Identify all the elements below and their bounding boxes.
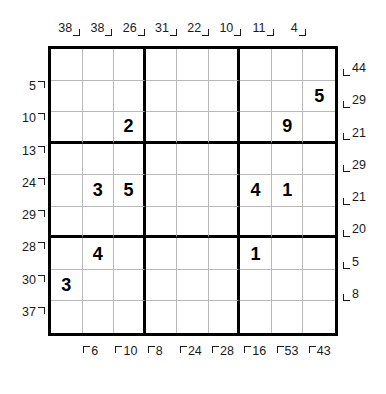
empty-cell-r7c3[interactable] [114,238,146,270]
empty-cell-r7c9[interactable] [303,238,335,270]
empty-cell-r1c5[interactable] [177,49,209,81]
empty-cell-r2c3[interactable] [114,81,146,113]
empty-cell-r2c7[interactable] [240,81,272,113]
top-clue-col4: 31 [151,22,177,35]
given-cell-r5c7[interactable]: 4 [240,175,272,207]
empty-cell-r4c8[interactable] [272,144,304,176]
empty-cell-r7c8[interactable] [272,238,304,270]
empty-cell-r1c1[interactable] [51,49,83,81]
empty-cell-r9c9[interactable] [303,301,335,333]
empty-cell-r3c2[interactable] [83,112,115,144]
empty-cell-r6c2[interactable] [83,207,115,239]
top-clue-col7: 11 [248,22,274,35]
empty-cell-r9c5[interactable] [177,301,209,333]
given-cell-r3c8[interactable]: 9 [272,112,304,144]
empty-cell-r8c7[interactable] [240,270,272,302]
empty-cell-r1c3[interactable] [114,49,146,81]
clue-corner-bracket-icon [234,29,241,36]
empty-cell-r1c6[interactable] [209,49,241,81]
right-clue-row4: 29 [343,159,377,172]
empty-cell-r4c7[interactable] [240,144,272,176]
clue-corner-bracket-icon [343,133,350,140]
given-cell-r7c7[interactable]: 1 [240,238,272,270]
empty-cell-r8c3[interactable] [114,270,146,302]
empty-cell-r7c6[interactable] [209,238,241,270]
empty-cell-r7c1[interactable] [51,238,83,270]
empty-cell-r9c7[interactable] [240,301,272,333]
empty-cell-r3c7[interactable] [240,112,272,144]
empty-cell-r6c5[interactable] [177,207,209,239]
empty-cell-r1c2[interactable] [83,49,115,81]
empty-cell-r8c9[interactable] [303,270,335,302]
empty-cell-r4c4[interactable] [146,144,178,176]
empty-cell-r1c8[interactable] [272,49,304,81]
empty-cell-r3c6[interactable] [209,112,241,144]
empty-cell-r5c1[interactable] [51,175,83,207]
frame-sudoku-puzzle: 383826312210114 510132429283037 44292129… [0,0,386,394]
bottom-clue-col6: 28 [212,345,241,358]
clue-value: 24 [188,345,202,358]
empty-cell-r6c4[interactable] [146,207,178,239]
given-cell-r5c3[interactable]: 5 [114,175,146,207]
empty-cell-r2c6[interactable] [209,81,241,113]
clue-corner-bracket-icon [202,29,209,36]
clue-value: 26 [123,22,137,35]
empty-cell-r2c1[interactable] [51,81,83,113]
empty-cell-r6c8[interactable] [272,207,304,239]
empty-cell-r1c9[interactable] [303,49,335,81]
empty-cell-r9c6[interactable] [209,301,241,333]
empty-cell-r7c4[interactable] [146,238,178,270]
empty-cell-r3c1[interactable] [51,112,83,144]
given-cell-r5c8[interactable]: 1 [272,175,304,207]
top-clue-col3: 26 [119,22,145,35]
clue-value: 5 [352,256,359,269]
empty-cell-r6c1[interactable] [51,207,83,239]
clue-corner-bracket-icon [38,81,45,88]
empty-cell-r8c5[interactable] [177,270,209,302]
clue-value: 28 [220,345,234,358]
empty-cell-r3c9[interactable] [303,112,335,144]
empty-cell-r5c5[interactable] [177,175,209,207]
empty-cell-r2c5[interactable] [177,81,209,113]
empty-cell-r6c7[interactable] [240,207,272,239]
empty-cell-r9c4[interactable] [146,301,178,333]
empty-cell-r9c1[interactable] [51,301,83,333]
top-clue-col6: 10 [215,22,241,35]
empty-cell-r4c2[interactable] [83,144,115,176]
empty-cell-r2c4[interactable] [146,81,178,113]
empty-cell-r6c9[interactable] [303,207,335,239]
empty-cell-r1c7[interactable] [240,49,272,81]
empty-cell-r2c2[interactable] [83,81,115,113]
empty-cell-r4c6[interactable] [209,144,241,176]
given-cell-r3c3[interactable]: 2 [114,112,146,144]
empty-cell-r6c6[interactable] [209,207,241,239]
empty-cell-r3c4[interactable] [146,112,178,144]
clue-value: 29 [22,209,36,222]
empty-cell-r8c4[interactable] [146,270,178,302]
empty-cell-r4c5[interactable] [177,144,209,176]
empty-cell-r4c1[interactable] [51,144,83,176]
empty-cell-r5c4[interactable] [146,175,178,207]
empty-cell-r9c8[interactable] [272,301,304,333]
bottom-clue-col9: 43 [309,345,338,358]
empty-cell-r3c5[interactable] [177,112,209,144]
given-cell-r8c1[interactable]: 3 [51,270,83,302]
given-cell-r2c9[interactable]: 5 [303,81,335,113]
empty-cell-r8c6[interactable] [209,270,241,302]
given-cell-r5c2[interactable]: 3 [83,175,115,207]
empty-cell-r5c6[interactable] [209,175,241,207]
sudoku-grid[interactable]: 5293541413 [48,46,338,336]
empty-cell-r7c5[interactable] [177,238,209,270]
empty-cell-r4c3[interactable] [114,144,146,176]
empty-cell-r2c8[interactable] [272,81,304,113]
given-cell-r7c2[interactable]: 4 [83,238,115,270]
empty-cell-r6c3[interactable] [114,207,146,239]
empty-cell-r4c9[interactable] [303,144,335,176]
empty-cell-r8c8[interactable] [272,270,304,302]
empty-cell-r5c9[interactable] [303,175,335,207]
left-clue-row7: 28 [12,241,45,254]
empty-cell-r9c2[interactable] [83,301,115,333]
empty-cell-r1c4[interactable] [146,49,178,81]
empty-cell-r9c3[interactable] [114,301,146,333]
empty-cell-r8c2[interactable] [83,270,115,302]
